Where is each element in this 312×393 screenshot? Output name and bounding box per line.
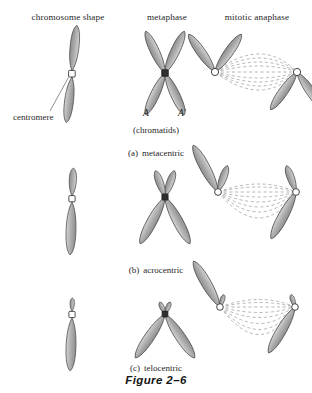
row-marker-b: (b) xyxy=(129,265,140,275)
figure-number: Figure 2–6 xyxy=(0,374,312,386)
centromere-marker-anaphase-right-metacentric xyxy=(293,68,300,75)
column-header-chromosome-shape: chromosome shape xyxy=(0,12,136,22)
centromere-marker-metaphase-telocentric xyxy=(162,311,168,317)
centromere-marker-metaphase-acrocentric xyxy=(162,194,168,200)
row-acrocentric-shape xyxy=(65,168,77,255)
spindle-fibers-metacentric xyxy=(215,54,297,90)
spindle-fibers-telocentric xyxy=(220,300,295,335)
column-header-metaphase: metaphase xyxy=(128,12,206,22)
centromere-marker-telocentric xyxy=(69,311,75,317)
centromere-marker-anaphase-left-metacentric xyxy=(211,68,218,75)
centromere-marker-metaphase-metacentric xyxy=(162,70,169,77)
row-metacentric-anaphase xyxy=(185,32,312,112)
centromere-marker-anaphase-left-acrocentric xyxy=(215,189,222,196)
row-marker-c: (c) xyxy=(130,363,140,373)
figure-artwork xyxy=(0,0,312,393)
centromere-leader-line xyxy=(50,78,68,111)
row-metacentric-metaphase xyxy=(142,29,189,116)
chromatid-label-a: A xyxy=(143,108,149,118)
row-label-metacentric: metacentric xyxy=(142,148,184,158)
centromere-marker-acrocentric xyxy=(69,196,75,202)
centromere-marker-anaphase-left-telocentric xyxy=(217,304,224,311)
row-telocentric-shape xyxy=(65,298,77,371)
column-header-mitotic-anaphase: mitotic anaphase xyxy=(202,12,312,22)
centromere-label: centromere xyxy=(13,112,53,122)
chromatids-label: (chromatids) xyxy=(133,125,179,135)
chromatid-label-a-prime: A′ xyxy=(178,108,186,118)
row-metacentric-shape xyxy=(50,25,81,123)
row-acrocentric-metaphase xyxy=(136,169,194,246)
centromere-marker-anaphase-right-telocentric xyxy=(292,304,299,311)
figure-2-6: chromosome shape metaphase mitotic anaph… xyxy=(0,0,312,393)
row-label-acrocentric: acrocentric xyxy=(143,265,183,275)
row-caption-acrocentric: (b)acrocentric xyxy=(0,265,312,275)
centromere-marker-anaphase-right-acrocentric xyxy=(293,189,300,196)
row-label-telocentric: telocentric xyxy=(144,363,182,373)
centromere-marker-metacentric xyxy=(69,70,76,77)
row-marker-a: (a) xyxy=(128,148,138,158)
row-caption-telocentric: (c)telocentric xyxy=(0,363,312,373)
row-telocentric-metaphase xyxy=(131,301,198,360)
row-caption-metacentric: (a)metacentric xyxy=(0,148,312,158)
spindle-fibers-acrocentric xyxy=(218,184,296,218)
